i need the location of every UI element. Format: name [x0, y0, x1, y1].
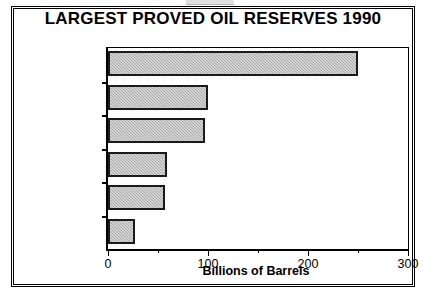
x-axis-minor-tick-mark	[258, 249, 259, 253]
bar	[108, 185, 165, 210]
bar	[108, 152, 167, 177]
bar-row: United States	[108, 216, 408, 250]
bar	[108, 118, 205, 143]
x-axis-tick-mark	[208, 249, 209, 256]
y-axis-tick-mark	[102, 82, 108, 84]
y-axis-tick-mark	[102, 149, 108, 151]
bar-row: Soviet Union	[108, 149, 408, 183]
x-axis-tick-mark	[308, 249, 309, 256]
plot-area: Saudi ArabiaIraqKuwaitSoviet UnionMexico…	[106, 47, 409, 251]
bar-row: Iraq	[108, 82, 408, 116]
chart-title: LARGEST PROVED OIL RESERVES 1990	[11, 9, 415, 29]
bar	[108, 219, 135, 244]
y-axis-tick-mark	[102, 216, 108, 218]
y-axis-tick-mark	[102, 182, 108, 184]
x-axis-title: Billions of Barrels	[106, 264, 406, 278]
bar	[108, 51, 358, 76]
y-axis-tick-mark	[102, 115, 108, 117]
bar-row: Kuwait	[108, 115, 408, 149]
bar	[108, 85, 208, 110]
x-axis-tick-mark	[108, 249, 109, 256]
cropped-artifact-strip	[186, 0, 234, 5]
bar-row: Saudi Arabia	[108, 48, 408, 82]
x-axis-minor-tick-mark	[358, 249, 359, 253]
bar-row: Mexico	[108, 182, 408, 216]
x-axis-minor-tick-mark	[158, 249, 159, 253]
x-axis-tick-mark	[408, 249, 409, 256]
